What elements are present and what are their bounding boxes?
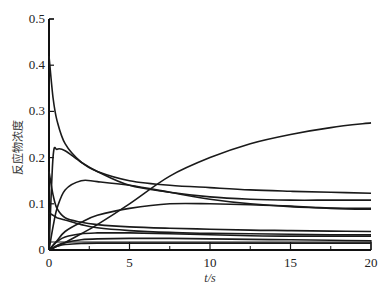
y-tick-label: 0.4: [29, 57, 46, 72]
chart: 00.10.20.30.40.5 05101520 t/s 反应物浓度: [0, 0, 387, 290]
x-tick-label: 5: [126, 255, 133, 270]
y-tick-label: 0.1: [29, 196, 45, 211]
y-tick-label: 0: [39, 242, 46, 257]
x-ticks: 05101520: [46, 242, 378, 270]
y-tick-label: 0.5: [29, 11, 45, 26]
y-tick-label: 0.2: [29, 150, 45, 165]
curve-decay-from-0.42: [49, 56, 371, 193]
x-tick-label: 10: [204, 255, 217, 270]
x-tick-label: 15: [284, 255, 297, 270]
x-tick-label: 0: [46, 255, 53, 270]
y-tick-label: 0.3: [29, 103, 45, 118]
x-axis-title: t/s: [204, 271, 216, 285]
x-tick-label: 20: [365, 255, 378, 270]
y-axis-title: 反应物浓度: [11, 120, 25, 175]
curves: [49, 56, 371, 250]
curve-fast-decay-to-0.04: [49, 172, 371, 232]
